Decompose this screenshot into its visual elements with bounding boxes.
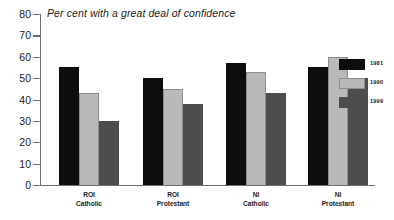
bar [266, 93, 286, 185]
y-axis-tick [33, 121, 40, 122]
legend-label: 1981 [370, 60, 383, 66]
y-axis-tick [33, 100, 40, 101]
y-axis-tick [33, 164, 40, 165]
x-axis-category-line: Protestant [283, 199, 393, 208]
legend-swatch [339, 78, 365, 89]
bar-chart: Per cent with a great deal of confidence… [0, 0, 394, 220]
bar [143, 78, 163, 185]
y-axis-tick-label: 60 [1, 51, 31, 63]
bar [59, 67, 79, 185]
bar [328, 57, 348, 185]
y-axis-tick-label: 30 [1, 115, 31, 127]
plot-area [41, 14, 375, 185]
y-axis-tick-label: 70 [1, 29, 31, 41]
y-axis-tick-label: 50 [1, 72, 31, 84]
y-axis-tick [33, 57, 40, 58]
x-axis-category-line: NI [283, 190, 393, 199]
bar [183, 104, 203, 185]
y-axis-tick [33, 78, 40, 79]
bar [348, 78, 368, 185]
bar [79, 93, 99, 185]
y-axis-tick-label: 10 [1, 158, 31, 170]
y-axis-labels: 80706050403020100 [0, 0, 31, 220]
y-axis-tick [33, 14, 40, 15]
bar [226, 63, 246, 185]
legend-swatch [339, 97, 365, 108]
bar-group [226, 14, 286, 185]
x-axis-line [40, 185, 375, 186]
x-axis-category-label: NIProtestant [283, 190, 393, 208]
y-axis-tick [33, 35, 40, 36]
bar [163, 89, 183, 185]
legend-swatch [339, 59, 365, 70]
bar-group [59, 14, 119, 185]
legend-label: 1990 [370, 79, 383, 85]
bar [308, 67, 328, 185]
legend-label: 1999 [370, 98, 383, 104]
y-axis-tick [33, 142, 40, 143]
bar [246, 72, 266, 185]
bar [99, 121, 119, 185]
y-axis-tick [33, 185, 40, 186]
y-axis-tick-label: 40 [1, 94, 31, 106]
y-axis-tick-label: 80 [1, 8, 31, 20]
y-axis-tick-label: 0 [1, 179, 31, 191]
y-axis-tick-label: 20 [1, 136, 31, 148]
bar-group [143, 14, 203, 185]
